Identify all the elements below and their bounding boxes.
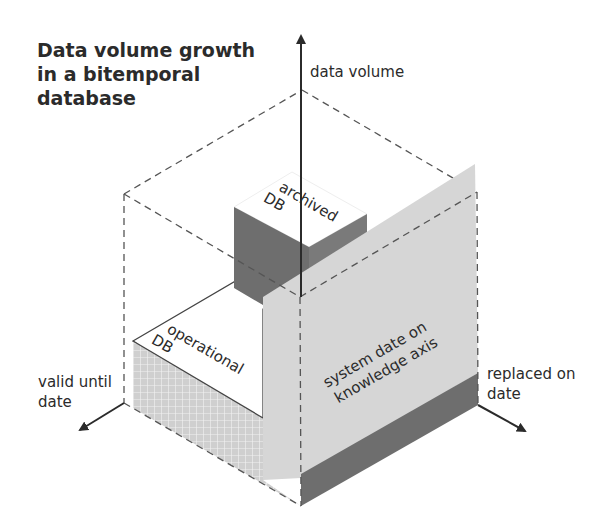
axis-label-replaced-on: replaced on date [487,364,575,404]
replaced-on-line-2: date [487,384,575,404]
valid-until-line-1: valid until [38,372,112,392]
replaced-on-line-1: replaced on [487,364,575,384]
axis-label-data-volume: data volume [310,62,404,82]
axis-label-valid-until: valid until date [38,372,112,412]
valid-until-line-2: date [38,392,112,412]
bitemporal-cube-diagram: archived DB operational DB system date o… [0,0,609,528]
data-volume-text: data volume [310,62,404,82]
axis-right [478,405,525,431]
